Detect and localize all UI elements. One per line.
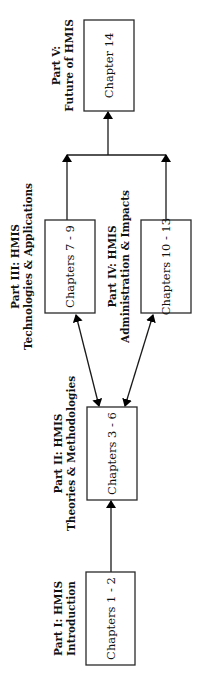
node-part1: Chapters 1 - 2 Part I: HMIS Introduction	[52, 572, 135, 665]
node-part4: Chapters 10 - 13 Part IV: HMIS Administr…	[106, 190, 191, 344]
part2-title-line2: Theories & Methodologies	[65, 376, 77, 531]
chapters-3-6-box-label: Chapters 3 - 6	[105, 412, 119, 495]
merge-connector	[67, 112, 166, 220]
part1-title-line2: Introduction	[65, 581, 77, 656]
double-arrow-part2-part3	[76, 315, 99, 406]
part1-title-line1: Part I: HMIS	[52, 581, 64, 656]
part5-title-line1: Part V:	[50, 46, 62, 85]
hmis-book-structure-diagram: Chapter 14 Part V: Future of HMIS Chapte…	[0, 0, 206, 700]
chapter-14-box-label: Chapter 14	[102, 33, 116, 99]
chapters-10-13-box-label: Chapters 10 - 13	[159, 218, 173, 315]
node-part5: Chapter 14 Part V: Future of HMIS	[50, 19, 134, 111]
part3-title-line2: Technologies & Applications	[22, 183, 34, 350]
part4-title-line2: Administration & Impacts	[119, 190, 131, 344]
part3-title-line1: Part III: HMIS	[9, 224, 21, 309]
chapters-7-9-box-label: Chapters 7 - 9	[63, 225, 77, 308]
chapters-1-2-box-label: Chapters 1 - 2	[104, 577, 118, 660]
part5-title-line2: Future of HMIS	[63, 19, 75, 111]
node-part2: Chapters 3 - 6 Part II: HMIS Theories & …	[52, 376, 137, 531]
part2-title-line1: Part II: HMIS	[52, 414, 64, 494]
node-part3: Chapters 7 - 9 Part III: HMIS Technologi…	[9, 183, 95, 350]
part4-title-line1: Part IV: HMIS	[106, 225, 118, 307]
